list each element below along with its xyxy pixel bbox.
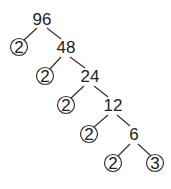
node-6: 6	[129, 125, 138, 144]
node-label: 6	[129, 125, 138, 144]
edge-24-2	[71, 86, 84, 98]
node-label: 96	[33, 10, 52, 29]
prime-node-2: 2	[58, 96, 75, 115]
edge-48-2	[50, 57, 61, 69]
node-label: 12	[104, 96, 123, 115]
node-24: 24	[81, 67, 100, 86]
prime-node-3: 3	[147, 154, 164, 173]
factor-tree-canvas: 96 2 48 2 24 2 12 2 6	[0, 0, 171, 189]
node-label: 2	[108, 154, 117, 173]
node-label: 3	[150, 154, 159, 173]
node-12: 12	[104, 96, 123, 115]
node-label: 2	[14, 38, 23, 57]
factor-tree: 96 2 48 2 24 2 12 2 6	[0, 0, 171, 189]
edge-12-6	[117, 115, 130, 126]
edge-6-3	[138, 144, 151, 156]
node-label: 24	[81, 67, 100, 86]
node-label: 2	[61, 96, 70, 115]
node-48: 48	[57, 38, 76, 57]
node-label: 2	[84, 125, 93, 144]
node-label: 48	[57, 38, 76, 57]
node-96: 96	[33, 10, 52, 29]
edge-12-2	[94, 115, 108, 127]
node-label: 2	[40, 67, 49, 86]
prime-node-2: 2	[105, 154, 122, 173]
edge-6-2	[118, 144, 130, 156]
edge-96-2	[24, 28, 37, 40]
prime-node-2: 2	[37, 67, 54, 86]
prime-node-2: 2	[11, 38, 28, 57]
prime-node-2: 2	[81, 125, 98, 144]
